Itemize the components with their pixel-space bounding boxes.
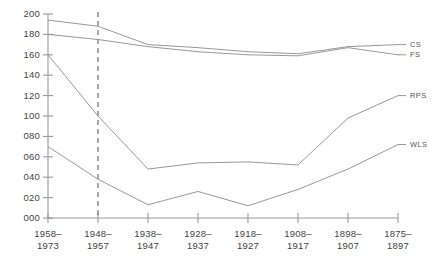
- series-label-rps: RPS: [410, 91, 427, 100]
- y-axis-tick-label: 060: [10, 151, 40, 162]
- series-label-cs: CS: [410, 40, 421, 49]
- x-axis-tick-label: 1875–1897: [366, 228, 430, 251]
- x-axis-tick-label-line: 1897: [366, 240, 430, 252]
- y-axis-tick-label: 200: [10, 8, 40, 19]
- x-axis-tick-label-line: 1875–: [366, 228, 430, 240]
- y-axis-tick-label: 040: [10, 171, 40, 182]
- legend-leader-lines: [398, 45, 406, 145]
- series-lines: [48, 20, 398, 206]
- y-axis-tick-label: 180: [10, 28, 40, 39]
- axes: [48, 14, 398, 218]
- y-axis-tick-label: 120: [10, 90, 40, 101]
- y-axis-tick-label: 020: [10, 192, 40, 203]
- plot-area: [0, 0, 440, 265]
- series-label-fs: FS: [410, 50, 420, 59]
- line-chart: 000020040060080100120140160180200 1958–1…: [0, 0, 440, 265]
- y-axis-tick-label: 080: [10, 130, 40, 141]
- y-axis-tick-label: 160: [10, 49, 40, 60]
- y-axis-tick-label: 000: [10, 212, 40, 223]
- y-axis-tick-label: 100: [10, 110, 40, 121]
- y-axis-tick-label: 140: [10, 69, 40, 80]
- series-label-wls: WLS: [410, 140, 427, 149]
